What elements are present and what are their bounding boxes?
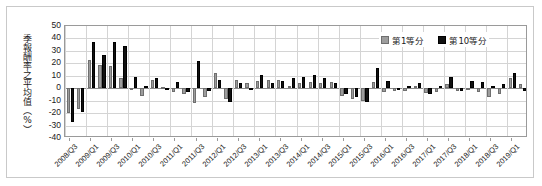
bar-quintile-1 — [466, 88, 469, 90]
bar-quintile-10 — [376, 68, 379, 88]
x-tick-label: 2011/Q1 — [159, 142, 185, 168]
y-tick-label: 0 — [37, 83, 61, 92]
bar-quintile-1 — [319, 83, 322, 88]
bar-quintile-10 — [439, 86, 442, 88]
bar-quintile-10 — [113, 42, 116, 88]
bar-quintile-1 — [487, 88, 490, 97]
bar-quintile-1 — [130, 88, 133, 90]
y-tick-label: -10 — [37, 96, 61, 105]
bar-quintile-1 — [403, 88, 406, 90]
bar-quintile-1 — [214, 73, 217, 88]
x-tick-mark — [385, 138, 386, 141]
bar-quintile-10 — [207, 88, 210, 90]
bar-quintile-10 — [239, 83, 242, 88]
x-tick-mark — [90, 138, 91, 141]
bar-quintile-10 — [302, 77, 305, 88]
bar-quintile-1 — [309, 82, 312, 88]
bar-quintile-1 — [151, 80, 154, 89]
bar-quintile-10 — [481, 82, 484, 88]
bar-quintile-10 — [260, 75, 263, 89]
y-tick-label: -20 — [37, 108, 61, 117]
bar-quintile-10 — [165, 88, 168, 90]
y-tick-label: 30 — [37, 46, 61, 55]
bar-quintile-1 — [393, 88, 396, 90]
bar-quintile-10 — [292, 78, 295, 88]
bar-quintile-1 — [182, 88, 185, 94]
bar-quintile-1 — [193, 88, 196, 103]
bar-quintile-10 — [134, 77, 137, 88]
x-tick-mark — [448, 138, 449, 141]
bar-quintile-10 — [249, 88, 252, 90]
bar-quintile-10 — [186, 88, 189, 92]
x-tick-mark — [364, 138, 365, 141]
bar-quintile-1 — [435, 88, 438, 92]
bar-quintile-1 — [351, 88, 354, 99]
y-tick-label: -30 — [37, 121, 61, 130]
bar-quintile-10 — [176, 82, 179, 88]
x-tick-mark — [427, 138, 428, 141]
bar-quintile-1 — [119, 78, 122, 88]
y-tick-label: 20 — [37, 58, 61, 67]
x-tick-mark — [174, 138, 175, 141]
bar-quintile-10 — [418, 83, 421, 88]
bar-quintile-1 — [414, 86, 417, 88]
x-tick-mark — [153, 138, 154, 141]
bar-quintile-10 — [281, 81, 284, 88]
x-tick-mark — [511, 138, 512, 141]
bar-quintile-1 — [235, 80, 238, 89]
x-tick-mark — [132, 138, 133, 141]
bar-quintile-1 — [203, 88, 206, 97]
x-axis-tick-labels: 2008/Q32009/Q12009/Q32010/Q12010/Q32011/… — [64, 138, 527, 186]
bar-quintile-10 — [313, 75, 316, 89]
x-tick-mark — [196, 138, 197, 141]
bar-quintile-1 — [277, 80, 280, 89]
bar-quintile-1 — [477, 88, 480, 92]
x-tick-mark — [259, 138, 260, 141]
bar-quintile-1 — [172, 88, 175, 92]
y-tick-label: 50 — [37, 21, 61, 30]
bar-quintile-10 — [144, 86, 147, 88]
legend-label-quintile-1: 第1等分 — [392, 34, 424, 46]
legend-swatch-icon-quintile-10 — [438, 36, 446, 44]
bar-quintile-10 — [428, 88, 431, 94]
x-tick-mark — [406, 138, 407, 141]
bar-quintile-10 — [386, 81, 389, 88]
bar-quintile-1 — [509, 78, 512, 88]
bar-quintile-10 — [491, 86, 494, 88]
y-tick-label: 10 — [37, 71, 61, 80]
bar-quintile-10 — [355, 88, 358, 97]
x-tick-mark — [301, 138, 302, 141]
bar-quintile-10 — [407, 86, 410, 88]
bar-quintile-1 — [382, 88, 385, 92]
bar-quintile-1 — [109, 66, 112, 88]
bar-quintile-1 — [98, 65, 101, 89]
bar-quintile-10 — [344, 88, 347, 94]
bar-quintile-1 — [298, 83, 301, 88]
x-tick-mark — [217, 138, 218, 141]
bar-quintile-1 — [161, 87, 164, 89]
bar-quintile-1 — [445, 84, 448, 88]
x-tick-mark — [490, 138, 491, 141]
bar-quintile-10 — [334, 83, 337, 88]
bar-quintile-1 — [330, 82, 333, 88]
bar-quintile-10 — [155, 78, 158, 88]
legend-label-quintile-10: 第10等分 — [449, 34, 487, 46]
bar-quintile-10 — [81, 88, 84, 112]
x-tick-mark — [280, 138, 281, 141]
bar-quintile-10 — [228, 88, 231, 102]
legend-entry-quintile-1: 第1等分 — [381, 34, 424, 46]
bar-quintile-10 — [449, 77, 452, 88]
bar-quintile-10 — [218, 80, 221, 89]
bar-quintile-1 — [498, 88, 501, 94]
y-axis-title: 季報酬率之平均值（%） — [17, 23, 37, 145]
x-tick-mark — [111, 138, 112, 141]
bar-quintile-1 — [140, 88, 143, 95]
bar-quintile-1 — [88, 60, 91, 89]
bar-quintile-10 — [460, 88, 463, 90]
bar-quintile-10 — [197, 61, 200, 88]
bar-quintile-1 — [372, 82, 375, 88]
bar-quintile-1 — [361, 88, 364, 100]
bar-quintile-1 — [224, 88, 227, 99]
bar-quintile-1 — [340, 88, 343, 95]
bar-quintile-10 — [271, 83, 274, 88]
